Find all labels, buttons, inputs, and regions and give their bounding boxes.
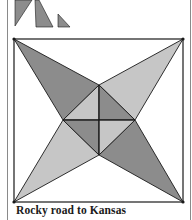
template-pieces bbox=[15, 0, 70, 27]
diagram-caption: Rocky road to Kansas bbox=[16, 204, 126, 216]
quilt-diagram bbox=[0, 0, 192, 220]
corner-dot bbox=[181, 200, 184, 203]
template-triangle-3 bbox=[58, 14, 70, 27]
quilt-block bbox=[12, 37, 184, 203]
corner-dot bbox=[12, 37, 15, 40]
template-triangle-1 bbox=[15, 0, 32, 26]
template-triangle-2 bbox=[35, 0, 53, 27]
corner-dot bbox=[181, 37, 184, 40]
